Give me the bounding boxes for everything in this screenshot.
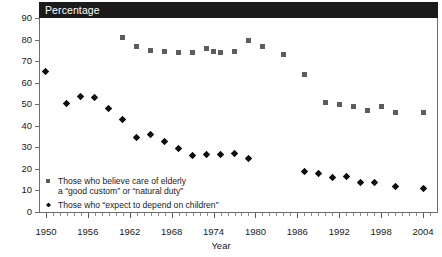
data-point-square xyxy=(260,44,265,49)
x-tick-major xyxy=(172,213,173,218)
data-point-square xyxy=(190,50,195,55)
x-tick-minor xyxy=(325,213,326,216)
x-tick-label: 1962 xyxy=(119,227,140,237)
x-tick-label: 2004 xyxy=(412,227,433,237)
legend-item-depend-on-children: Those who “expect to depend on children” xyxy=(46,200,261,210)
x-tick-minor xyxy=(367,213,368,216)
x-tick-minor xyxy=(67,213,68,216)
x-tick-major xyxy=(423,213,424,218)
y-tick-label: 80 xyxy=(2,35,32,44)
data-point-square xyxy=(302,72,307,77)
x-tick-minor xyxy=(221,213,222,216)
x-tick-label: 1974 xyxy=(203,227,224,237)
x-tick-minor xyxy=(283,213,284,216)
x-tick-label: 1956 xyxy=(77,227,98,237)
x-tick-minor xyxy=(193,213,194,216)
data-point-square xyxy=(351,104,356,109)
x-tick-minor xyxy=(409,213,410,216)
x-tick-minor xyxy=(207,213,208,216)
x-tick-minor xyxy=(311,213,312,216)
x-tick-minor xyxy=(60,213,61,216)
data-point-square xyxy=(365,108,370,113)
data-point-square xyxy=(232,49,237,54)
data-point-square xyxy=(281,52,286,57)
x-tick-minor xyxy=(123,213,124,216)
x-tick-minor xyxy=(144,213,145,216)
x-tick-minor xyxy=(304,213,305,216)
x-tick-minor xyxy=(158,213,159,216)
chart-header-bar: Percentage xyxy=(39,2,438,18)
x-tick-minor xyxy=(353,213,354,216)
x-tick-minor xyxy=(248,213,249,216)
x-tick-major xyxy=(381,213,382,218)
y-tick xyxy=(35,61,39,62)
x-tick-minor xyxy=(430,213,431,216)
y-tick xyxy=(35,147,39,148)
x-tick-minor xyxy=(395,213,396,216)
x-tick-minor xyxy=(346,213,347,216)
x-tick-major xyxy=(297,213,298,218)
data-point-square xyxy=(393,110,398,115)
x-axis-title: Year xyxy=(0,241,442,251)
y-tick xyxy=(35,212,39,213)
x-tick-minor xyxy=(332,213,333,216)
data-point-square xyxy=(204,46,209,51)
y-tick-label: 40 xyxy=(2,121,32,130)
x-tick-major xyxy=(339,213,340,218)
y-tick-label: 10 xyxy=(2,185,32,194)
chart-title: Percentage xyxy=(45,3,100,17)
data-point-square xyxy=(379,104,384,109)
x-tick-major xyxy=(88,213,89,218)
y-tick xyxy=(35,126,39,127)
x-tick-minor xyxy=(374,213,375,216)
x-tick-major xyxy=(214,213,215,218)
x-tick-minor xyxy=(276,213,277,216)
y-tick xyxy=(35,190,39,191)
x-tick-major xyxy=(255,213,256,218)
legend-label-line3: Those who “expect to depend on children” xyxy=(46,200,261,210)
y-tick-label: 0 xyxy=(2,207,32,216)
x-tick-label: 1998 xyxy=(371,227,392,237)
x-tick-minor xyxy=(95,213,96,216)
chart-container: Percentage 0102030405060708090 195019561… xyxy=(0,0,442,257)
y-tick xyxy=(35,40,39,41)
chart-legend: Those who believe care of elderly a “goo… xyxy=(46,176,261,212)
x-tick-minor xyxy=(137,213,138,216)
data-point-square xyxy=(218,50,223,55)
data-point-square xyxy=(148,48,153,53)
y-tick-label: 70 xyxy=(2,56,32,65)
data-point-square xyxy=(323,100,328,105)
y-tick-label: 50 xyxy=(2,99,32,108)
x-tick-minor xyxy=(179,213,180,216)
legend-label-line2: a “good custom” or “natural duty” xyxy=(46,186,261,196)
data-point-square xyxy=(134,44,139,49)
x-tick-label: 1986 xyxy=(287,227,308,237)
x-tick-label: 1950 xyxy=(35,227,56,237)
x-tick-minor xyxy=(165,213,166,216)
data-point-square xyxy=(176,50,181,55)
x-tick-minor xyxy=(53,213,54,216)
y-tick xyxy=(35,83,39,84)
x-tick-minor xyxy=(116,213,117,216)
x-tick-major xyxy=(130,213,131,218)
x-tick-major xyxy=(46,213,47,218)
legend-label-line1: Those who believe care of elderly xyxy=(46,176,261,186)
y-tick-label: 60 xyxy=(2,78,32,87)
plot-right-border xyxy=(437,18,438,213)
x-tick-minor xyxy=(109,213,110,216)
data-point-square xyxy=(337,102,342,107)
x-tick-minor xyxy=(235,213,236,216)
x-tick-label: 1992 xyxy=(329,227,350,237)
y-tick xyxy=(35,104,39,105)
y-tick xyxy=(35,18,39,19)
x-tick-minor xyxy=(269,213,270,216)
data-point-square xyxy=(211,49,216,54)
x-tick-minor xyxy=(200,213,201,216)
y-tick xyxy=(35,169,39,170)
x-tick-minor xyxy=(402,213,403,216)
x-tick-minor xyxy=(241,213,242,216)
x-tick-label: 1980 xyxy=(245,227,266,237)
x-tick-minor xyxy=(262,213,263,216)
x-tick-minor xyxy=(228,213,229,216)
x-axis-line xyxy=(39,212,438,213)
